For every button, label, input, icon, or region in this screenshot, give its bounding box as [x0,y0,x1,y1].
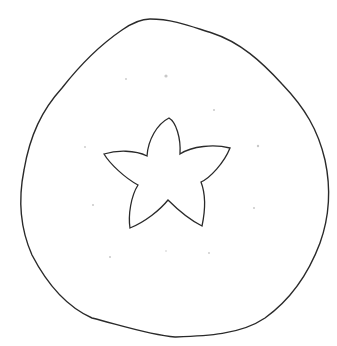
calyx-star [104,118,230,228]
surface-specks [84,74,259,258]
fruit-outline [21,19,329,337]
persimmon-drawing [0,0,337,346]
